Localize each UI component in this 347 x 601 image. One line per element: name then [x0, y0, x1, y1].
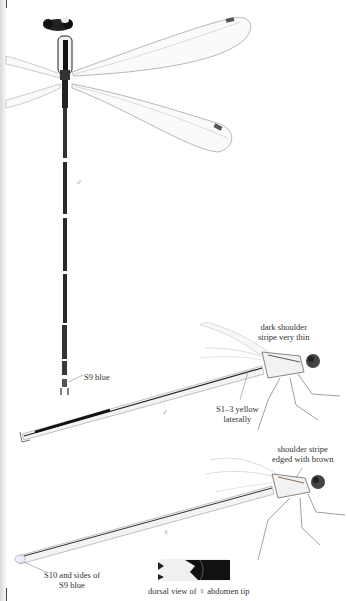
label-line-2: stripe very thin	[258, 332, 309, 342]
label-line-2: edged with brown	[272, 454, 333, 464]
label-s1-3-yellow: S1–3 yellow laterally	[216, 404, 259, 424]
label-s10-blue: S10 and sides of S9 blue	[44, 570, 100, 590]
male-dorsal-figure	[6, 17, 251, 395]
label-line-1: shoulder stripe	[272, 444, 333, 454]
label-line-1: S1–3 yellow	[216, 404, 259, 414]
label-line-2: S9 blue	[44, 580, 100, 590]
label-dark-shoulder-stripe: dark shoulder stripe very thin	[258, 322, 309, 342]
female-lateral-figure	[15, 458, 345, 572]
label-line-1: S10 and sides of	[44, 570, 100, 580]
male-symbol-dorsal: ♂	[76, 178, 82, 187]
damselfly-illustrations	[0, 0, 347, 601]
label-shoulder-stripe-brown: shoulder stripe edged with brown	[272, 444, 333, 464]
male-symbol-lateral: ♂	[162, 408, 168, 417]
label-line-2: laterally	[216, 414, 259, 424]
label-line-1: dark shoulder	[258, 322, 309, 332]
abdomen-tip-inset	[158, 559, 230, 581]
female-symbol-lateral: ♀	[163, 528, 169, 537]
label-s9-blue: S9 blue	[84, 372, 110, 382]
inset-caption: dorsal view of ♀ abdomen tip	[148, 586, 250, 596]
